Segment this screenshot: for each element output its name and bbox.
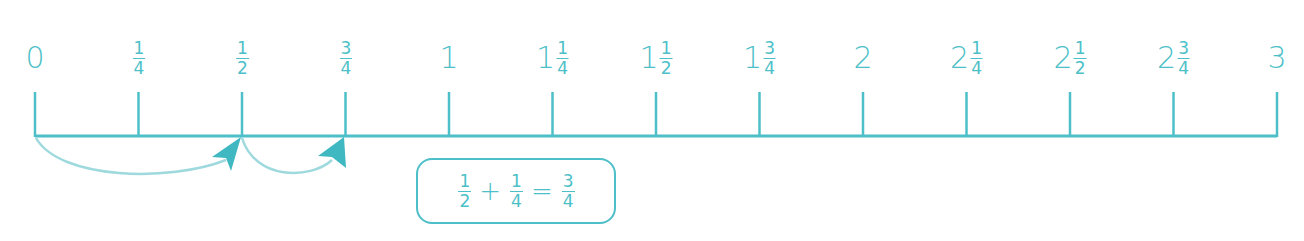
tick-marks [35,92,1277,137]
tick-label: 0 [25,30,44,86]
tick-label: 3 [1267,30,1286,86]
tick-label: 34 [339,30,353,86]
fraction: 12 [236,40,249,77]
whole-number: 2 [1157,43,1176,73]
tick-label: 134 [743,30,776,86]
tick-label: 14 [132,30,146,86]
whole-number: 2 [1054,43,1073,73]
fraction: 14 [133,40,146,77]
jump-arrow-half-to-three-quarters [242,138,332,173]
jump-arrow-0-to-half [36,138,226,174]
fraction: 14 [970,40,983,77]
arrowhead-icon [318,137,346,168]
tick-label: 214 [950,30,983,86]
whole-number: 0 [25,43,44,73]
number-line-diagram: 0141234111411213422142122343 1 2 + 1 4 =… [0,0,1304,241]
tick-label: 114 [536,30,569,86]
tick-label: 2 [853,30,872,86]
arrowhead-icon [212,137,241,171]
whole-number: 1 [640,43,659,73]
fraction: 34 [763,40,776,77]
whole-number: 1 [536,43,555,73]
plus-sign: + [479,178,501,204]
equals-sign: = [531,178,553,204]
fraction-a: 1 2 [458,173,471,210]
whole-number: 1 [743,43,762,73]
fraction-result: 3 4 [562,173,575,210]
equation-box: 1 2 + 1 4 = 3 4 [416,158,616,224]
tick-label: 112 [640,30,673,86]
whole-number: 1 [439,43,458,73]
fraction: 12 [660,40,673,77]
tick-label: 212 [1054,30,1087,86]
tick-label: 1 [439,30,458,86]
tick-label: 12 [235,30,249,86]
fraction: 34 [1177,40,1190,77]
fraction: 14 [556,40,569,77]
whole-number: 2 [853,43,872,73]
fraction: 34 [340,40,353,77]
whole-number: 2 [950,43,969,73]
fraction: 12 [1074,40,1087,77]
whole-number: 3 [1267,43,1286,73]
fraction-b: 1 4 [510,173,523,210]
tick-label: 234 [1157,30,1190,86]
